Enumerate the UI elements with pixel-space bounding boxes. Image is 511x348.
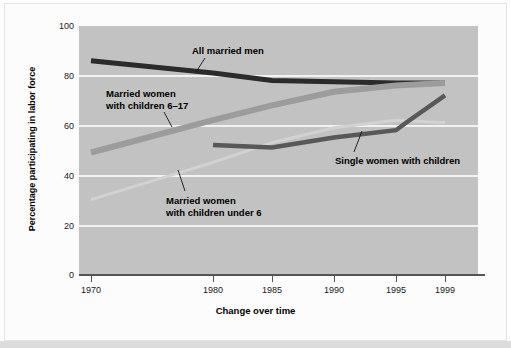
y-tick-label-80: 80	[64, 71, 74, 81]
y-axis-title: Percentage participating in labor force	[27, 49, 37, 249]
y-tick-label-20: 20	[64, 221, 74, 231]
gridline-60	[79, 125, 478, 127]
series-label-married-women-6-17: Married women with children 6–17	[106, 88, 188, 112]
x-tick-label-1970: 1970	[81, 285, 101, 295]
x-tick-1995	[396, 276, 397, 282]
series-label-married-women-6-17-line2: with children 6–17	[106, 100, 188, 112]
x-tick-label-1990: 1990	[324, 285, 344, 295]
x-tick-label-1985: 1985	[262, 285, 282, 295]
gridline-80	[79, 75, 478, 77]
gridline-20	[79, 225, 478, 227]
series-label-married-women-under-6: Married women with children under 6	[166, 195, 262, 219]
figure-bottom-shadow	[0, 341, 511, 348]
y-tick-label-100: 100	[59, 21, 74, 31]
x-axis-title: Change over time	[0, 305, 511, 316]
x-tick-1980	[213, 276, 214, 282]
x-tick-1999	[445, 276, 446, 282]
x-tick-label-1995: 1995	[386, 285, 406, 295]
series-label-married-women-under-6-line1: Married women	[166, 195, 262, 207]
x-tick-1970	[91, 276, 92, 282]
y-tick-label-0: 0	[69, 270, 74, 280]
x-axis-line	[79, 274, 485, 276]
series-label-all-married-men: All married men	[192, 45, 264, 57]
chart-figure: 1970 1980 1985 1990 1995 1999 100 80 60 …	[0, 0, 511, 348]
y-tick-label-group: 100 80 60 40 20 0	[44, 0, 74, 348]
gridline-40	[79, 175, 478, 177]
series-label-married-women-under-6-line2: with children under 6	[166, 207, 262, 219]
x-tick-label-1999: 1999	[435, 285, 455, 295]
x-tick-label-1980: 1980	[203, 285, 223, 295]
series-label-single-women-with-children: Single women with children	[335, 155, 460, 167]
series-label-married-women-6-17-line1: Married women	[106, 88, 188, 100]
y-tick-label-60: 60	[64, 121, 74, 131]
x-tick-1985	[272, 276, 273, 282]
x-tick-1990	[334, 276, 335, 282]
plot-area	[79, 26, 478, 274]
y-tick-label-40: 40	[64, 171, 74, 181]
